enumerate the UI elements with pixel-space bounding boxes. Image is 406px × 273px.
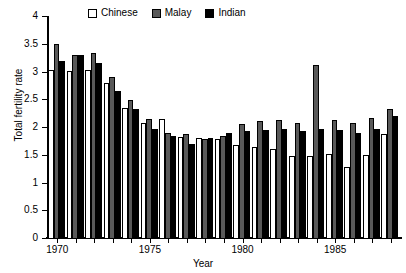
bar-group-1974 xyxy=(122,16,141,238)
x-axis-title: Year xyxy=(0,259,406,269)
bar-indian-1980[interactable] xyxy=(245,131,251,238)
x-tick-mark xyxy=(187,239,188,243)
bar-indian-1983[interactable] xyxy=(300,131,306,238)
bar-groups xyxy=(48,16,400,238)
bar-group-1981 xyxy=(252,16,271,238)
bar-group-1978 xyxy=(196,16,215,238)
bar-indian-1975[interactable] xyxy=(152,129,158,238)
bar-indian-1985[interactable] xyxy=(337,130,343,238)
bar-group-1980 xyxy=(233,16,252,238)
x-tick-mark xyxy=(150,239,151,243)
bar-indian-1981[interactable] xyxy=(263,130,269,238)
x-tick-mark xyxy=(168,239,169,243)
bar-group-1988 xyxy=(381,16,400,238)
x-tick-label: 1975 xyxy=(139,245,161,255)
x-tick-label: 1970 xyxy=(46,245,68,255)
bar-group-1975 xyxy=(141,16,160,238)
bar-group-1972 xyxy=(85,16,104,238)
x-tick-mark xyxy=(205,239,206,243)
bar-indian-1982[interactable] xyxy=(282,129,288,238)
y-tick-label: 3.5 xyxy=(24,39,38,49)
x-tick-label: 1980 xyxy=(231,245,253,255)
x-tick-mark xyxy=(76,239,77,243)
y-tick-label: 2 xyxy=(32,122,38,132)
bar-group-1984 xyxy=(307,16,326,238)
bar-group-1973 xyxy=(104,16,123,238)
x-tick-mark xyxy=(243,239,244,243)
bar-group-1977 xyxy=(178,16,197,238)
bar-indian-1974[interactable] xyxy=(133,109,139,238)
bar-group-1979 xyxy=(215,16,234,238)
bar-group-1985 xyxy=(326,16,345,238)
x-tick-mark xyxy=(335,239,336,243)
x-tick-label: 1985 xyxy=(324,245,346,255)
y-tick-label: 0 xyxy=(32,233,38,243)
bar-group-1970 xyxy=(48,16,67,238)
bar-indian-1970[interactable] xyxy=(59,61,65,238)
y-tick-mark xyxy=(42,238,48,239)
x-tick-mark xyxy=(298,239,299,243)
y-axis-title: Total fertility rate xyxy=(14,40,24,170)
x-tick-mark xyxy=(354,239,355,243)
bar-indian-1973[interactable] xyxy=(115,91,121,238)
bar-indian-1976[interactable] xyxy=(171,136,177,238)
y-tick-label: 1.5 xyxy=(24,150,38,160)
x-tick-mark xyxy=(372,239,373,243)
bar-group-1976 xyxy=(159,16,178,238)
y-tick-label: 4 xyxy=(32,11,38,21)
x-tick-mark xyxy=(391,239,392,243)
x-tick-mark xyxy=(113,239,114,243)
bar-indian-1972[interactable] xyxy=(96,63,102,238)
x-tick-mark xyxy=(94,239,95,243)
bar-group-1971 xyxy=(67,16,86,238)
x-tick-mark xyxy=(131,239,132,243)
x-tick-mark xyxy=(317,239,318,243)
bar-group-1986 xyxy=(344,16,363,238)
x-tick-mark xyxy=(224,239,225,243)
y-tick-label: 3 xyxy=(32,67,38,77)
bar-indian-1971[interactable] xyxy=(78,55,84,238)
y-tick-label: 1 xyxy=(32,178,38,188)
x-tick-mark xyxy=(261,239,262,243)
x-tick-mark xyxy=(57,239,58,243)
bar-indian-1986[interactable] xyxy=(356,133,362,238)
bar-indian-1978[interactable] xyxy=(208,138,214,238)
bar-indian-1984[interactable] xyxy=(319,129,325,238)
bar-indian-1988[interactable] xyxy=(393,116,399,238)
y-tick-label: 2.5 xyxy=(24,94,38,104)
bar-group-1982 xyxy=(270,16,289,238)
bar-indian-1987[interactable] xyxy=(374,129,380,238)
bar-indian-1979[interactable] xyxy=(226,133,232,238)
plot-area xyxy=(48,16,400,238)
x-tick-mark xyxy=(280,239,281,243)
bar-indian-1977[interactable] xyxy=(189,144,195,238)
bar-group-1987 xyxy=(363,16,382,238)
fertility-rate-bar-chart: ChineseMalayIndian 00.511.522.533.54 197… xyxy=(0,0,406,273)
y-tick-label: 0.5 xyxy=(24,205,38,215)
bar-group-1983 xyxy=(289,16,308,238)
